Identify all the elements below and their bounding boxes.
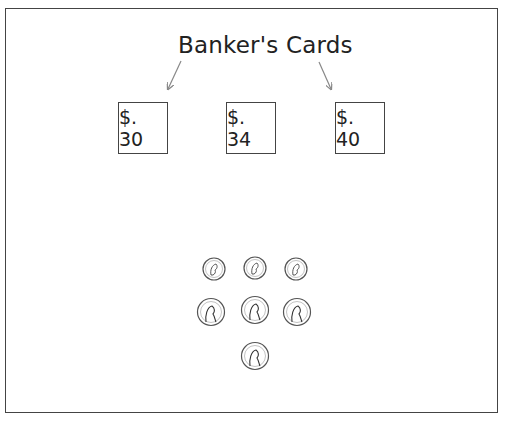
dime-icon xyxy=(243,256,267,280)
card-label: $. 40 xyxy=(336,106,384,150)
arrow-right-icon xyxy=(319,62,331,89)
card-30: $. 30 xyxy=(118,102,168,154)
arrow-left-icon xyxy=(168,61,181,89)
card-34: $. 34 xyxy=(226,102,276,154)
penny-icon xyxy=(196,297,226,327)
dime-icon xyxy=(284,257,308,281)
penny-icon xyxy=(282,297,312,327)
card-40: $. 40 xyxy=(335,102,385,154)
dime-icon xyxy=(202,257,226,281)
card-label: $. 30 xyxy=(119,106,167,150)
penny-icon xyxy=(240,341,270,371)
card-label: $. 34 xyxy=(227,106,275,150)
penny-icon xyxy=(240,295,270,325)
